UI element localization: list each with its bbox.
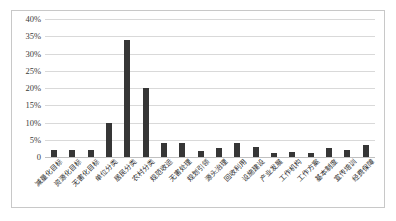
plot-area: 40%35%30%25%20%15%10%5%0 (45, 19, 375, 157)
y-axis-tick-label: 20% (25, 84, 41, 93)
y-axis-tick-label: 40% (25, 15, 41, 24)
bar-slot (265, 19, 283, 157)
bar[interactable] (106, 123, 112, 158)
y-axis-tick-label: 30% (25, 49, 41, 58)
bar-slot (357, 19, 375, 157)
bar-slot (100, 19, 118, 157)
category-axis-labels: 减量化目标资源化目标无害化目标单位分类居民分类农村分类规范收运无害处理规划引领源… (45, 159, 375, 209)
bar[interactable] (124, 40, 130, 157)
bar-slot (247, 19, 265, 157)
bar-slot (82, 19, 100, 157)
bar[interactable] (363, 145, 369, 157)
y-axis-tick-label: 25% (25, 67, 41, 76)
bar-slot (228, 19, 246, 157)
y-axis-tick-label: 10% (25, 118, 41, 127)
y-axis-tick-label: 15% (25, 101, 41, 110)
bar-slot (210, 19, 228, 157)
bar-slot (45, 19, 63, 157)
bar[interactable] (51, 150, 57, 157)
bar-slot (173, 19, 191, 157)
bar[interactable] (216, 148, 222, 157)
bar[interactable] (198, 151, 204, 157)
y-axis-tick-label: 5% (30, 136, 41, 145)
bar-slot (283, 19, 301, 157)
bar[interactable] (289, 152, 295, 157)
bar-slot (118, 19, 136, 157)
bar-slot (63, 19, 81, 157)
bar-series (45, 19, 375, 157)
y-axis-tick-label: 0 (37, 153, 41, 162)
y-axis-tick-label: 35% (25, 32, 41, 41)
bar-slot (155, 19, 173, 157)
bar[interactable] (234, 143, 240, 157)
bar-slot (302, 19, 320, 157)
bar[interactable] (253, 147, 259, 157)
chart-container: 40%35%30%25%20%15%10%5%0 减量化目标资源化目标无害化目标… (11, 10, 385, 208)
bar-slot (320, 19, 338, 157)
bar-slot (137, 19, 155, 157)
bar-slot (338, 19, 356, 157)
bar[interactable] (69, 150, 75, 157)
bar-slot (192, 19, 210, 157)
bar[interactable] (143, 88, 149, 157)
bar[interactable] (88, 150, 94, 157)
bar[interactable] (271, 153, 277, 157)
bar[interactable] (308, 153, 314, 157)
bar[interactable] (344, 150, 350, 157)
bar[interactable] (179, 143, 185, 157)
bar[interactable] (161, 143, 167, 157)
bar[interactable] (326, 148, 332, 157)
